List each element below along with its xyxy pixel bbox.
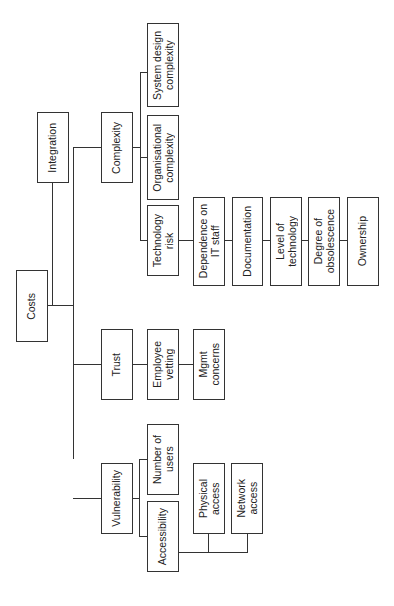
node-label: Complexity — [111, 122, 123, 174]
node-label: Vulnerability — [111, 470, 123, 527]
connector-accessibility-bottom — [178, 552, 248, 553]
node-costs: Costs — [16, 270, 48, 342]
node-organisational-complexity: Organisational complexity — [147, 115, 179, 200]
node-degree-of-obsolescence: Degree of obsolescence — [308, 197, 340, 286]
node-label: Physical access — [198, 479, 221, 518]
node-complexity: Complexity — [101, 112, 133, 183]
node-network-access: Network access — [231, 463, 263, 534]
node-label: System design complexity — [152, 31, 175, 100]
node-label: Technology risk — [152, 214, 175, 267]
node-label: Ownership — [357, 216, 369, 266]
cost-hierarchy-diagram: Costs Integration Complexity System desi… — [0, 0, 394, 606]
connector-to-network-access — [247, 533, 248, 553]
connector-to-physical-access — [208, 533, 209, 553]
node-label: Level of technology — [275, 216, 298, 267]
node-label: Degree of obsolescence — [313, 209, 336, 273]
node-dependence-on-it-staff: Dependence on IT staff — [193, 197, 225, 286]
connector-to-trust — [73, 364, 101, 365]
node-integration: Integration — [37, 112, 69, 183]
connector-costs-trunk — [47, 305, 73, 306]
connector-vulnerability-out — [132, 498, 139, 499]
node-employee-vetting: Employee vetting — [147, 329, 179, 400]
node-label: Number of users — [152, 435, 175, 484]
node-mgmt-concerns: Mgmt concerns — [193, 329, 225, 400]
node-label: Accessibility — [157, 508, 169, 565]
node-accessibility: Accessibility — [147, 501, 179, 572]
node-physical-access: Physical access — [193, 463, 225, 534]
connector-integration-stem — [52, 182, 53, 306]
node-number-of-users: Number of users — [147, 424, 179, 495]
node-label: Mgmt concerns — [198, 343, 221, 386]
node-label: Documentation — [242, 206, 254, 277]
node-label: Costs — [26, 293, 38, 320]
node-system-design-complexity: System design complexity — [147, 23, 179, 107]
node-label: Organisational complexity — [152, 124, 175, 192]
node-label: Dependence on IT staff — [198, 204, 221, 278]
node-level-of-technology: Level of technology — [270, 197, 302, 286]
node-technology-risk: Technology risk — [147, 205, 179, 276]
connector-complexity-out — [132, 147, 140, 148]
connector-to-vulnerability — [73, 498, 101, 499]
node-label: Trust — [111, 353, 123, 377]
connector-to-organisational — [140, 157, 147, 158]
connector-main-trunk — [73, 147, 74, 459]
node-documentation: Documentation — [232, 197, 263, 286]
node-trust: Trust — [101, 329, 133, 400]
connector-vulnerability-branch — [139, 459, 140, 537]
connector-to-complexity — [73, 147, 101, 148]
connector-to-system-design — [140, 72, 147, 73]
node-label: Network access — [236, 479, 259, 518]
node-ownership: Ownership — [347, 197, 379, 286]
connector-to-number-of-users — [139, 459, 147, 460]
connector-to-technology-risk — [140, 240, 147, 241]
connector-to-accessibility — [139, 536, 147, 537]
node-vulnerability: Vulnerability — [101, 463, 133, 534]
node-label: Employee vetting — [152, 341, 175, 388]
node-label: Integration — [47, 123, 59, 173]
